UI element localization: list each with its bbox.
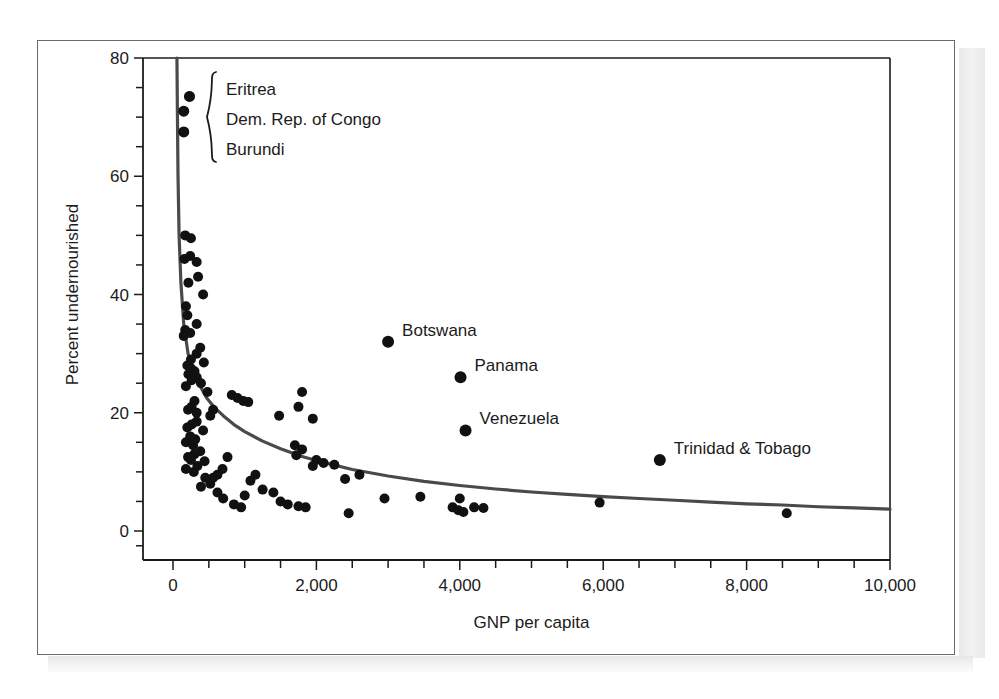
scatter-point-labeled bbox=[382, 336, 394, 348]
scatter-point bbox=[268, 488, 278, 498]
figure-root: 02040608002,0004,0006,0008,00010,000GNP … bbox=[0, 0, 999, 699]
y-axis-tick-label: 0 bbox=[120, 522, 129, 541]
scatter-point bbox=[192, 319, 202, 329]
scatter-point bbox=[458, 507, 468, 517]
scatter-point bbox=[192, 257, 202, 267]
y-axis-tick-label: 60 bbox=[110, 167, 129, 186]
scatter-point bbox=[245, 476, 255, 486]
scatter-point bbox=[595, 498, 605, 508]
scatter-point bbox=[301, 502, 311, 512]
scatter-point bbox=[258, 485, 268, 495]
scatter-point bbox=[205, 411, 215, 421]
scatter-point-labeled bbox=[455, 371, 467, 383]
scatter-point bbox=[181, 301, 191, 311]
scatter-point-highlighted bbox=[178, 126, 189, 137]
scatter-point bbox=[182, 310, 192, 320]
scatter-point bbox=[297, 387, 307, 397]
scatter-point bbox=[218, 493, 228, 503]
y-axis-tick-label: 40 bbox=[110, 286, 129, 305]
scatter-point bbox=[354, 470, 364, 480]
brace-icon bbox=[207, 72, 216, 162]
scatter-point bbox=[179, 331, 189, 341]
scatter-point bbox=[340, 474, 350, 484]
x-axis-tick-label: 8,000 bbox=[725, 576, 768, 595]
brace-country-label: Eritrea bbox=[226, 80, 277, 99]
scatter-point bbox=[222, 452, 232, 462]
scatter-point bbox=[179, 254, 189, 264]
scatter-point bbox=[199, 357, 209, 367]
scatter-point bbox=[319, 458, 329, 468]
scatter-point bbox=[782, 508, 792, 518]
scatter-point bbox=[236, 502, 246, 512]
scatter-point-labeled bbox=[460, 424, 472, 436]
scatter-chart: 02040608002,0004,0006,0008,00010,000GNP … bbox=[0, 0, 999, 699]
y-axis-title: Percent undernourished bbox=[63, 204, 82, 385]
y-axis-tick-label: 20 bbox=[110, 404, 129, 423]
scatter-point bbox=[205, 479, 215, 489]
scatter-point bbox=[380, 493, 390, 503]
scatter-point-label: Botswana bbox=[402, 321, 477, 340]
scatter-point bbox=[455, 493, 465, 503]
scatter-point-highlighted bbox=[178, 106, 189, 117]
scatter-point bbox=[198, 290, 208, 300]
scatter-point bbox=[308, 414, 318, 424]
scatter-point bbox=[183, 278, 193, 288]
y-axis-tick-label: 80 bbox=[110, 49, 129, 68]
x-axis-tick-label: 10,000 bbox=[864, 576, 916, 595]
brace-country-label: Dem. Rep. of Congo bbox=[226, 110, 381, 129]
scatter-point bbox=[182, 423, 192, 433]
scatter-point bbox=[291, 450, 301, 460]
x-axis-tick-label: 4,000 bbox=[439, 576, 482, 595]
scatter-point bbox=[192, 408, 202, 418]
scatter-point bbox=[469, 502, 479, 512]
scatter-point bbox=[344, 508, 354, 518]
scatter-point bbox=[202, 387, 212, 397]
scatter-point bbox=[189, 467, 199, 477]
scatter-point-highlighted bbox=[184, 91, 195, 102]
scatter-point bbox=[293, 402, 303, 412]
scatter-point bbox=[183, 405, 193, 415]
scatter-point bbox=[193, 272, 203, 282]
scatter-point bbox=[283, 499, 293, 509]
scatter-point bbox=[196, 378, 206, 388]
scatter-point bbox=[186, 233, 196, 243]
scatter-point bbox=[243, 397, 253, 407]
scatter-point bbox=[196, 482, 206, 492]
scatter-point bbox=[308, 461, 318, 471]
scatter-point-label: Trinidad & Tobago bbox=[674, 439, 811, 458]
scatter-point bbox=[240, 491, 250, 501]
x-axis-tick-label: 2,000 bbox=[295, 576, 338, 595]
scatter-point-label: Venezuela bbox=[480, 409, 560, 428]
brace-country-label: Burundi bbox=[226, 140, 285, 159]
scatter-point bbox=[181, 381, 191, 391]
scatter-point-label: Panama bbox=[475, 356, 539, 375]
x-axis-tick-label: 6,000 bbox=[582, 576, 625, 595]
x-axis-tick-label: 0 bbox=[168, 576, 177, 595]
scatter-point bbox=[274, 411, 284, 421]
scatter-point bbox=[478, 503, 488, 513]
scatter-point bbox=[415, 492, 425, 502]
x-axis-title: GNP per capita bbox=[474, 613, 590, 632]
scatter-point bbox=[198, 425, 208, 435]
scatter-point-labeled bbox=[654, 454, 666, 466]
scatter-point bbox=[329, 460, 339, 470]
